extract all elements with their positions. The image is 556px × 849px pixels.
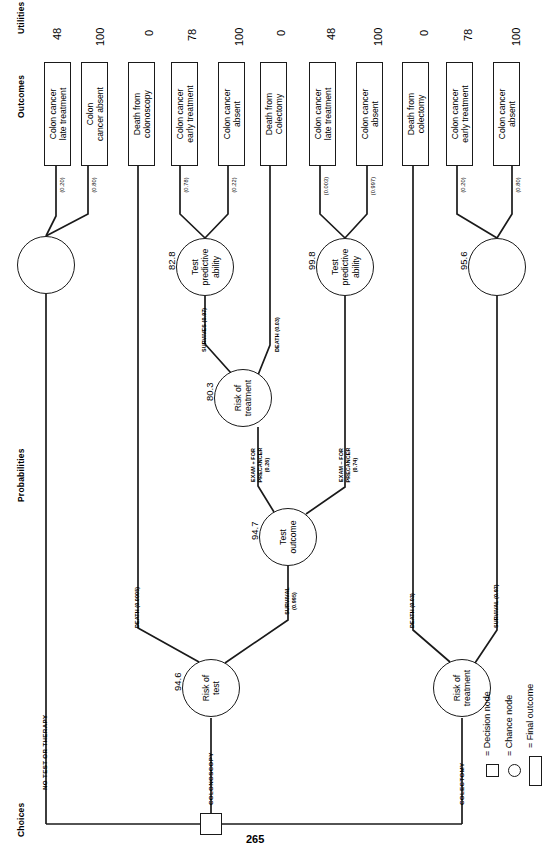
outcome-box: Colon cancer absent [218,62,245,166]
branch-probability: EXAM + FOR PRECANCER (0.26) [250,435,270,495]
branch-probability: DEATH (0.0005) [134,564,141,628]
legend-outcome-symbol [529,756,542,786]
chance-node-label: Risk of treatment [452,661,473,715]
chance-node-value: 82.8 [166,252,177,271]
utility-value: 100 [372,28,384,46]
outcome-box: Colon cancer absent [493,62,520,166]
outcome-label: Colon cancer absent [84,66,105,162]
chance-node-label: Risk of test [201,661,222,715]
branch-probability: SURVIVAL (0.97) [493,566,500,628]
branch-probability: (0.20) [59,165,66,205]
legend-chance-label: = Chance node [504,695,514,756]
legend-outcome-label: = Final outcome [525,684,535,748]
outcome-label: Colon cancer absent [221,66,242,162]
chance-node[interactable]: Risk of test [182,659,240,717]
chance-node[interactable]: Test outcome [259,508,317,566]
branch-probability: (0.20) [460,165,467,205]
branch-probability: (0.22) [231,165,238,205]
outcome-box: Death from Colectomy [260,62,287,166]
utility-value: 100 [510,28,522,46]
outcome-label: Death from colonoscopy [131,66,152,162]
branch-probability: EXAM – FOR PRECANCER (0.74) [338,435,358,495]
decision-node[interactable] [200,813,222,835]
utility-value: 48 [325,28,337,40]
outcome-label: Colon cancer late treatment [312,66,333,162]
utility-value: 100 [94,28,106,46]
branch-probability: (0.997) [370,164,377,208]
outcome-label: Colon cancer late treatment [47,66,68,162]
chance-node-label: Test outcome [278,510,299,564]
chance-node-label: Test predictive ability [190,240,221,294]
page-number: 265 [246,833,264,845]
branch-probability: DEATH (0.03) [274,297,281,352]
column-header-choices: Choices [17,803,27,837]
outcome-box: Colon cancer late treatment [44,62,71,166]
utility-value: 100 [233,28,245,46]
branch-probability: SURVIVAL (0.995) [284,577,298,625]
column-header-probabilities: Probabilities [17,448,27,502]
chance-node-label: Risk of treatment [233,371,254,425]
outcome-label: Colon cancer absent [496,66,517,162]
branch-probability: (0.78) [183,165,190,205]
outcome-box: Death from colectomy [402,62,429,166]
choice-label-colonoscopy: COLONOSCOPY [207,752,214,805]
legend-decision-symbol [486,764,499,777]
utility-value: 78 [186,29,198,41]
utility-value: 0 [418,30,430,36]
branch-probability: (0.003) [323,164,330,208]
chance-node[interactable]: Test predictive ability [316,238,374,296]
legend-decision-label: = Decision node [482,691,492,756]
outcome-label: Colon cancer absent [359,66,380,162]
chance-node[interactable] [468,238,526,296]
utility-value: 48 [51,28,63,40]
chance-node-value: 95.6 [458,252,469,271]
outcome-label: Colon cancer early treatment [449,66,470,162]
outcome-label: Death from colectomy [405,66,426,162]
outcome-label: Death from Colectomy [263,66,284,162]
outcome-box: Colon cancer absent [356,62,383,166]
branch-probability: (0.80) [91,165,98,205]
branch-probability: DEATH (0.03) [409,573,416,628]
choice-label-colectomy: COLECTOMY [458,762,465,805]
chance-node[interactable] [17,236,75,294]
column-header-utilities: Utilities [17,1,27,34]
chance-node-label: Test predictive ability [330,240,361,294]
legend-chance-symbol [508,764,521,777]
chance-node-value: 99.8 [306,252,317,271]
chance-node-value: 80.3 [204,383,215,402]
outcome-label: Colon cancer early treatment [174,66,195,162]
outcome-box: Death from colonoscopy [128,62,155,166]
chance-node-value: 94.6 [172,673,183,692]
column-header-outcomes: Outcomes [17,75,27,118]
chance-node[interactable]: Risk of treatment [214,369,272,427]
outcome-box: Colon cancer early treatment [446,62,473,166]
chance-node[interactable]: Test predictive ability [176,238,234,296]
outcome-box: Colon cancer early treatment [171,62,198,166]
choice-label-no-test: NO TEST OR THERAPY [41,715,48,790]
utility-value: 0 [275,30,287,36]
utility-value: 78 [462,29,474,41]
branch-probability: (0.80) [515,165,522,205]
decision-tree-figure: Utilities Outcomes Probabilities Choices [0,0,556,849]
outcome-box: Colon cancer absent [81,62,108,166]
branch-probability: SURVIVES (0.97) [201,290,208,352]
utility-value: 0 [143,30,155,36]
chance-node-value: 94.7 [249,522,260,541]
outcome-box: Colon cancer late treatment [309,62,336,166]
